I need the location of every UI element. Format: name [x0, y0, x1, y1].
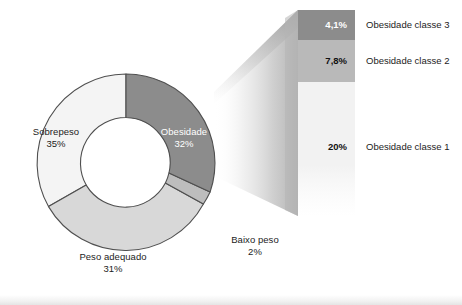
donut-label-baixo-peso: Baixo peso 2%	[219, 234, 291, 257]
donut-label-sobrepeso: Sobrepeso 35%	[18, 126, 94, 149]
donut-chart	[37, 74, 215, 250]
bar-side-panel	[285, 10, 298, 216]
page-bottom-artifact	[0, 295, 462, 305]
legend-item-classe-3: Obesidade classe 3	[366, 19, 449, 30]
donut-label-obesidade-name: Obesidade	[161, 126, 207, 137]
bar-value-classe-3: 4,1%	[303, 19, 347, 30]
donut-label-sobrepeso-value: 35%	[46, 138, 65, 149]
donut-label-baixo-peso-name: Baixo peso	[231, 234, 279, 245]
donut-label-baixo-peso-value: 2%	[248, 246, 262, 257]
legend-item-classe-1: Obesidade classe 1	[366, 141, 449, 152]
obesity-distribution-figure: Sobrepeso 35% Obesidade 32% Peso adequad…	[0, 0, 462, 305]
donut-label-sobrepeso-name: Sobrepeso	[33, 126, 79, 137]
donut-label-peso-adequado-value: 31%	[103, 263, 122, 274]
breakdown-bar	[285, 10, 355, 216]
donut-label-obesidade: Obesidade 32%	[149, 126, 219, 149]
bar-value-classe-2: 7,8%	[303, 55, 347, 66]
legend-item-classe-2: Obesidade classe 2	[366, 55, 449, 66]
donut-label-peso-adequado-name: Peso adequado	[79, 251, 146, 262]
bar-value-classe-1: 20%	[303, 141, 347, 152]
donut-slice-peso-adequado[interactable]	[49, 183, 204, 250]
donut-label-obesidade-value: 32%	[174, 138, 193, 149]
donut-label-peso-adequado: Peso adequado 31%	[61, 251, 165, 274]
